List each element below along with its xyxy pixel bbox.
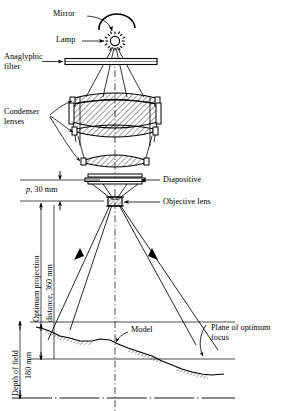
objective-lens-label: Objective lens xyxy=(163,197,211,206)
plane-of-optimum-focus-label-line1: Plane of optimum xyxy=(211,323,270,332)
optimum-projection-label: Optimum projection xyxy=(32,255,41,322)
depth-of-field-value-label: 180 mm xyxy=(24,352,33,379)
condenser-lens-upper xyxy=(69,93,161,128)
model-terrain-profile xyxy=(36,327,224,379)
mirror-reflector xyxy=(99,14,135,30)
condenser-lens-lower xyxy=(81,155,149,167)
depth-of-field-label: Depth of field xyxy=(11,350,20,396)
optical-projection-diagram xyxy=(0,0,285,411)
mirror-label: Mirror xyxy=(53,9,75,18)
model-leader-line xyxy=(116,332,128,342)
plane-of-optimum-focus-label-line2: focus xyxy=(211,333,229,342)
anaglyphic-filter-label-line2: filter xyxy=(4,62,20,71)
principal-distance-value: , 30 mm xyxy=(30,185,57,194)
condenser-lenses-label-line1: Condenser xyxy=(4,107,39,116)
projection-distance-label: distance, 360 mm xyxy=(45,264,54,322)
condenser-lenses-label-line2: lenses xyxy=(4,117,24,126)
plane-of-optimum-focus-leader xyxy=(200,325,206,356)
projection-cone-direction-arrows xyxy=(74,248,158,260)
objective-lens xyxy=(106,197,124,206)
anaglyphic-filter-label-line1: Anaglyphic xyxy=(4,52,43,61)
principal-distance-label: p, 30 mm xyxy=(26,185,58,194)
condenser-lens-middle xyxy=(72,125,158,137)
diapositive-label: Diapositive xyxy=(163,175,201,184)
lamp-label: Lamp xyxy=(56,35,75,44)
anaglyphic-filter xyxy=(65,59,157,65)
model-label: Model xyxy=(131,325,153,334)
lamp-source xyxy=(105,31,125,50)
diapositive-plate xyxy=(85,174,145,184)
